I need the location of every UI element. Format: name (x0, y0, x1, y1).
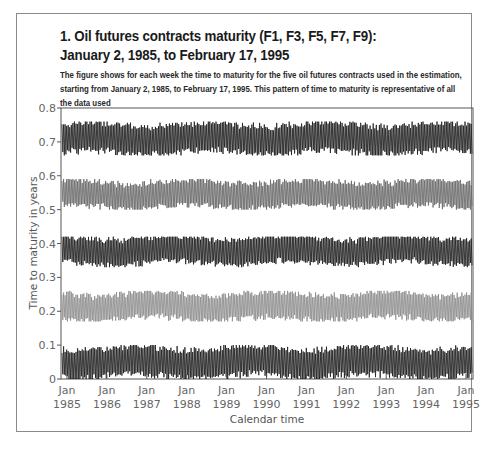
x-tick-month: Jan (177, 384, 195, 397)
x-tick-year: 1994 (412, 398, 440, 411)
x-tick-month: Jan (377, 384, 395, 397)
series-line-f5 (62, 237, 472, 268)
x-tick-year: 1986 (93, 398, 121, 411)
y-tick-label: 0.6 (39, 170, 57, 183)
x-tick-month: Jan (417, 384, 435, 397)
x-tick-year: 1987 (133, 398, 161, 411)
y-tick-label: 0.2 (39, 305, 57, 318)
y-tick-label: 0 (49, 373, 56, 386)
x-tick-month: Jan (337, 384, 355, 397)
y-axis-title: Time to maturity in years (27, 176, 39, 310)
series-line-f1 (62, 345, 472, 379)
y-tick-label: 0.4 (39, 238, 57, 251)
x-tick-month: Jan (457, 384, 475, 397)
x-tick-month: Jan (257, 384, 275, 397)
x-tick-month: Jan (97, 384, 115, 397)
x-tick-year: 1995 (452, 398, 480, 411)
x-tick-month: Jan (137, 384, 155, 397)
series-group (62, 122, 472, 379)
series-line-f3 (62, 291, 472, 322)
y-tick-label: 0.1 (39, 339, 57, 352)
x-tick-year: 1990 (253, 398, 281, 411)
x-tick-year: 1989 (213, 398, 241, 411)
x-tick-month: Jan (58, 384, 76, 397)
x-tick-year: 1992 (332, 398, 360, 411)
y-tick-label: 0.7 (39, 136, 57, 149)
x-tick-month: Jan (297, 384, 315, 397)
x-tick-year: 1988 (173, 398, 201, 411)
x-axis: Jan1985Jan1986Jan1987Jan1988Jan1989Jan19… (53, 374, 480, 411)
x-tick-year: 1993 (372, 398, 400, 411)
x-axis-title: Calendar time (230, 413, 304, 425)
y-tick-label: 0.8 (39, 102, 57, 115)
y-axis: 00.10.20.30.40.50.60.70.8 (39, 102, 62, 386)
x-tick-month: Jan (217, 384, 235, 397)
x-tick-year: 1985 (53, 398, 81, 411)
chart-svg: 00.10.20.30.40.50.60.70.8 Jan1985Jan1986… (0, 0, 486, 456)
y-tick-label: 0.5 (39, 204, 57, 217)
series-line-f9 (62, 122, 472, 156)
series-line-f7 (62, 179, 472, 210)
y-tick-label: 0.3 (39, 271, 57, 284)
x-tick-year: 1991 (292, 398, 320, 411)
